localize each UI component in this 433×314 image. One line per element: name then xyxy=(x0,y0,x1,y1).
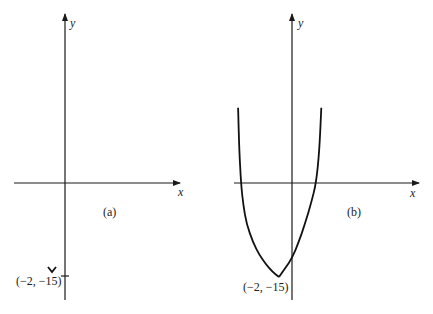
panel-label-a: (a) xyxy=(103,205,116,219)
curve-b xyxy=(238,108,321,277)
x-axis-label-a: x xyxy=(177,185,184,199)
vertex-label-a: (−2, −15) xyxy=(16,274,62,288)
panel-b: x y (b) (−2, −15) xyxy=(234,14,419,300)
vertex-label-b: (−2, −15) xyxy=(243,280,289,294)
figure: x y (a) (−2, −15) x y (b) (−2, −15) xyxy=(0,0,433,314)
x-axis-label-b: x xyxy=(409,186,416,200)
panel-a: x y (a) (−2, −15) xyxy=(14,14,184,300)
y-axis-label-b: y xyxy=(297,16,304,30)
y-axis-label-a: y xyxy=(69,16,76,30)
vertex-marker-a xyxy=(48,267,56,272)
panel-label-b: (b) xyxy=(347,205,361,219)
